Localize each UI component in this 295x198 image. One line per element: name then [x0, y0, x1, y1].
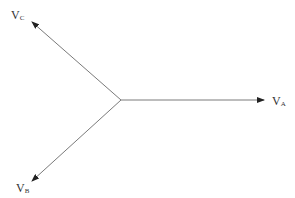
phasor-vc-label: VC	[11, 8, 25, 22]
phasor-diagram: VA VB VC	[0, 0, 295, 198]
phasor-vc: VC	[11, 8, 121, 100]
phasor-vb: VB	[16, 100, 121, 195]
phasor-vb-line	[32, 100, 121, 181]
phasor-vc-line	[32, 22, 121, 100]
phasor-va: VA	[121, 94, 286, 108]
phasor-va-label: VA	[272, 94, 286, 108]
phasor-vb-label: VB	[16, 181, 30, 195]
